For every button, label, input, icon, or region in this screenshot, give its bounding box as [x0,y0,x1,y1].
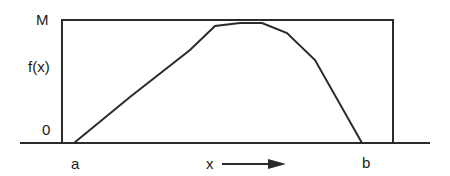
label-m: M [36,12,49,27]
label-b: b [362,155,370,170]
diagram-canvas [0,0,450,176]
label-fx: f(x) [28,59,50,74]
label-x: x [206,156,214,171]
label-zero: 0 [42,122,50,137]
function-curve [74,23,362,143]
label-a: a [71,156,79,171]
bounding-box [62,20,393,143]
arrow-right-icon [268,159,286,169]
